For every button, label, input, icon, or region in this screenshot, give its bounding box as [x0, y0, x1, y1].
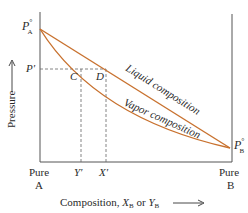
pb-label: P°B	[233, 137, 245, 155]
x-axis-label: Composition, XB or YB	[60, 196, 160, 210]
pure-b-label-line2: B	[227, 179, 234, 191]
pa-label: P°A	[21, 18, 33, 36]
p-prime-label: P′	[25, 62, 36, 74]
y-prime-label: Y′	[74, 166, 83, 178]
y-axis-label: Pressure	[5, 91, 17, 128]
pure-b-label-line1: Pure	[219, 166, 239, 178]
pure-a-label-line1: Pure	[29, 166, 49, 178]
point-d-label: D	[95, 70, 104, 82]
phase-diagram: Liquid composition Vapor composition P°A…	[0, 0, 248, 213]
x-prime-label: X′	[98, 166, 109, 178]
point-c-label: C	[70, 70, 78, 82]
pure-a-label-line2: A	[35, 179, 43, 191]
